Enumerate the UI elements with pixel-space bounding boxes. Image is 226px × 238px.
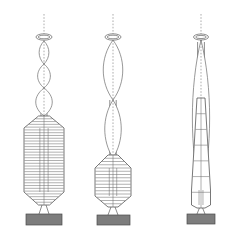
collar-ring-inner <box>38 35 50 39</box>
support-legs <box>108 207 118 215</box>
panel-right <box>187 14 215 224</box>
mode-shape-figure <box>0 0 226 238</box>
collar-ring-inner <box>107 35 119 39</box>
foundation-base <box>26 214 62 225</box>
foundation-base <box>187 214 215 224</box>
foundation-base <box>97 215 130 225</box>
panel-left <box>24 14 64 225</box>
figure-canvas <box>0 0 226 238</box>
support-legs <box>197 208 205 214</box>
panel-middle <box>95 14 131 225</box>
collar-ring-inner <box>196 35 207 38</box>
support-legs <box>39 205 49 214</box>
